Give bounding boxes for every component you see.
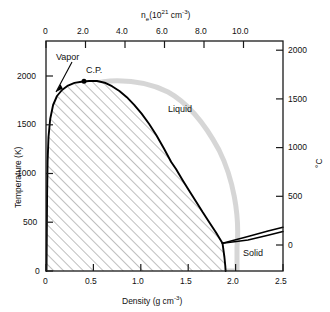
top-axis-unit-cm: cm: [168, 10, 182, 20]
bottom-tick-label-20: 2.0: [227, 276, 239, 286]
phase-diagram-figure: ne(1021 cm-3) 0 2.0 4.0 6.0 8.0 10.0 0 5…: [0, 0, 330, 312]
left-tick-label-0: 0: [35, 266, 40, 276]
bottom-tick-label-15: 1.5: [180, 276, 192, 286]
left-tick-label-500: 500: [23, 217, 37, 227]
bottom-axis-title: Density (g cm-3): [122, 294, 182, 306]
bottom-axis-title-text: Density (g cm: [122, 296, 174, 306]
phase-diagram-plot: [0, 0, 330, 312]
bottom-axis-title-tail: ): [179, 296, 182, 306]
solid-label: Solid: [243, 248, 263, 258]
top-tick-label-3: 6.0: [156, 26, 168, 36]
top-tick-label-1: 2.0: [77, 26, 89, 36]
top-axis-unit-open: (10: [149, 10, 161, 20]
bottom-tick-label-10: 1.0: [132, 276, 144, 286]
two-phase-hatched-region: [47, 81, 226, 271]
critical-point-label: C.P.: [86, 65, 102, 75]
right-axis-ticks: [276, 50, 283, 245]
right-tick-label-1000: 1000: [288, 142, 307, 152]
right-axis-title: °C: [314, 158, 324, 168]
top-tick-label-5: 10.0: [232, 26, 249, 36]
bottom-tick-label-25: 2.5: [275, 276, 287, 286]
vapor-label: Vapor: [56, 52, 79, 62]
bottom-tick-label-0: 0: [43, 276, 48, 286]
top-axis-unit-close: ): [188, 10, 191, 20]
right-tick-label-500: 500: [288, 191, 302, 201]
left-tick-label-1500: 1500: [17, 119, 36, 129]
bottom-tick-label-05: 0.5: [85, 276, 97, 286]
melting-line-lower: [223, 232, 284, 244]
top-tick-label-0: 0: [43, 26, 48, 36]
left-axis-title: Temperature (K): [13, 147, 23, 208]
liquid-label: Liquid: [168, 104, 192, 114]
right-tick-label-1500: 1500: [288, 94, 307, 104]
right-tick-label-2000: 2000: [288, 45, 307, 55]
left-tick-label-2000: 2000: [17, 71, 36, 81]
top-tick-label-2: 4.0: [116, 26, 128, 36]
right-tick-label-0: 0: [288, 240, 293, 250]
top-axis-title: ne(1021 cm-3): [141, 8, 190, 22]
critical-point-marker: [82, 79, 87, 84]
melting-line-upper: [223, 227, 284, 243]
top-axis-ticks: [46, 41, 244, 48]
top-tick-label-4: 8.0: [195, 26, 207, 36]
